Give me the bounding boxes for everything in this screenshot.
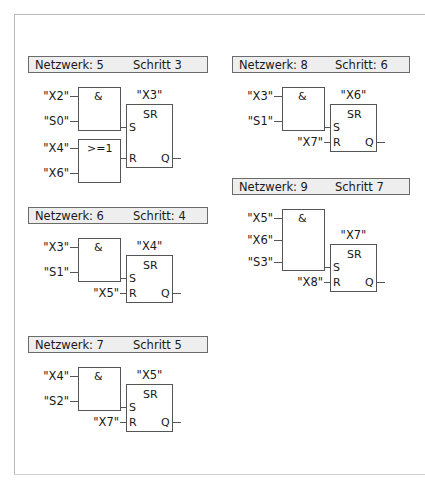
wire-q-output-9 [377, 282, 385, 283]
input-signal-s3-nw9: "S3" [232, 255, 273, 269]
and-gate-operator-5: & [94, 90, 103, 103]
wire-x3-to-and-8 [274, 96, 282, 97]
wire-x4-to-and-7 [70, 376, 78, 377]
network-header-9: Netzwerk: 9 Schritt 7 [232, 178, 410, 195]
wire-x6-to-or [70, 173, 78, 174]
sr-q-pin-8: Q [365, 136, 374, 149]
sr-reset-pin-5: R [129, 152, 137, 165]
page-border-top [14, 14, 425, 15]
sr-type-label-8: SR [347, 108, 362, 121]
sr-set-pin-8: S [333, 121, 340, 134]
network-header-7: Netzwerk: 7 Schritt 5 [28, 336, 208, 353]
reset-source-x7-nw7: "X7" [78, 415, 119, 429]
reset-source-x5-nw6: "X5" [78, 286, 119, 300]
page-border-bottom [14, 474, 425, 475]
sr-reset-pin-7: R [129, 416, 137, 429]
sr-reset-pin-9: R [333, 276, 341, 289]
page-border-left [14, 14, 15, 474]
input-signal-s2-nw7: "S2" [28, 394, 69, 408]
wire-x7-to-reset-8 [324, 142, 330, 143]
input-signal-x4-nw7: "X4" [28, 369, 69, 383]
network-title-8: Netzwerk: 8 [233, 58, 308, 72]
network-block-7: Netzwerk: 7 Schritt 5 & "X4" "S2" SR "X5… [28, 336, 410, 436]
network-step-5: Schritt 3 [133, 58, 182, 72]
page-canvas: Netzwerk: 5 Schritt 3 & "X2" "S0" >=1 "X… [0, 0, 425, 484]
and-gate-operator-6: & [94, 241, 103, 254]
reset-source-x7-nw8: "X7" [282, 135, 323, 149]
wire-and-to-set-6 [121, 278, 126, 279]
sr-q-pin-7: Q [161, 416, 170, 429]
sr-set-pin-5: S [129, 121, 136, 134]
wire-q-output-7 [173, 422, 181, 423]
wire-x4-to-or [70, 148, 78, 149]
wire-x2-to-and [70, 96, 78, 97]
wire-q-output-5 [173, 158, 181, 159]
network-block-8: Netzwerk: 8 Schritt: 6 & "X3" "S1" SR "X… [232, 56, 412, 156]
input-signal-x3-nw8: "X3" [232, 89, 273, 103]
reset-source-x8-nw9: "X8" [282, 275, 323, 289]
wire-s3-to-and-9 [274, 262, 282, 263]
wire-s2-to-and-7 [70, 401, 78, 402]
input-signal-x6: "X6" [28, 166, 69, 180]
network-title-6: Netzwerk: 6 [29, 209, 104, 223]
input-signal-s1-nw8: "S1" [232, 114, 273, 128]
sr-set-pin-9: S [333, 261, 340, 274]
wire-or-to-reset-5 [121, 158, 126, 159]
and-gate-operator-8: & [298, 90, 307, 103]
sr-set-pin-7: S [129, 401, 136, 414]
wire-s1-to-and-8 [274, 121, 282, 122]
wire-x3-to-and-6 [70, 247, 78, 248]
sr-set-pin-6: S [129, 272, 136, 285]
sr-type-label-6: SR [143, 259, 158, 272]
and-gate-operator-7: & [94, 370, 103, 383]
sr-q-pin-6: Q [161, 287, 170, 300]
sr-q-pin-9: Q [365, 276, 374, 289]
sr-type-label-7: SR [143, 388, 158, 401]
sr-q-pin-5: Q [161, 152, 170, 165]
network-title-7: Netzwerk: 7 [29, 338, 104, 352]
wire-and-to-set-7 [121, 407, 126, 408]
wire-and-to-set-5 [121, 127, 126, 128]
network-step-6: Schritt: 4 [133, 209, 186, 223]
wire-and-to-set-8 [325, 127, 330, 128]
wire-q-output-6 [173, 293, 181, 294]
input-signal-x5-nw9: "X5" [232, 211, 273, 225]
network-step-9: Schritt 7 [335, 180, 384, 194]
input-signal-x4: "X4" [28, 141, 69, 155]
sr-output-label-5: "X3" [126, 88, 173, 102]
input-signal-s1-nw6: "S1" [28, 265, 69, 279]
wire-x8-to-reset-9 [324, 282, 330, 283]
network-header-8: Netzwerk: 8 Schritt: 6 [232, 56, 410, 73]
wire-s1-to-and-6 [70, 272, 78, 273]
wire-x5-to-reset-6 [120, 293, 126, 294]
network-title-9: Netzwerk: 9 [233, 180, 308, 194]
sr-output-label-8: "X6" [330, 88, 377, 102]
network-header-6: Netzwerk: 6 Schritt: 4 [28, 207, 208, 224]
wire-and-to-set-9 [325, 267, 330, 268]
network-block-9: Netzwerk: 9 Schritt 7 & "X5" "X6" "S3" S… [232, 178, 412, 298]
or-gate-operator-5: >=1 [87, 142, 112, 155]
input-signal-x3-nw6: "X3" [28, 240, 69, 254]
input-signal-x2: "X2" [28, 89, 69, 103]
network-title-5: Netzwerk: 5 [29, 58, 104, 72]
sr-type-label-5: SR [143, 108, 158, 121]
sr-type-label-9: SR [347, 248, 362, 261]
input-signal-x6-nw9: "X6" [232, 233, 273, 247]
sr-output-label-7: "X5" [126, 368, 173, 382]
sr-output-label-6: "X4" [126, 239, 173, 253]
network-step-8: Schritt: 6 [335, 58, 388, 72]
sr-output-label-9: "X7" [330, 228, 377, 242]
wire-q-output-8 [377, 142, 385, 143]
network-step-7: Schritt 5 [133, 338, 182, 352]
wire-x7-to-reset-7 [120, 422, 126, 423]
wire-s0-to-and [70, 121, 78, 122]
sr-reset-pin-8: R [333, 136, 341, 149]
network-header-5: Netzwerk: 5 Schritt 3 [28, 56, 208, 73]
wire-x6-to-and-9 [274, 240, 282, 241]
wire-x5-to-and-9 [274, 218, 282, 219]
input-signal-s0: "S0" [28, 114, 69, 128]
and-gate-operator-9: & [298, 212, 307, 225]
sr-reset-pin-6: R [129, 287, 137, 300]
